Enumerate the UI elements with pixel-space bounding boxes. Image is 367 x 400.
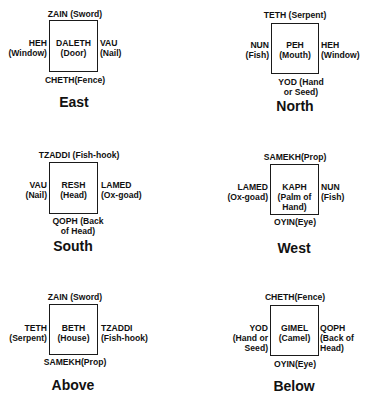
center-label: BETH (House): [49, 323, 98, 343]
label-line: HEH: [0, 38, 47, 48]
label-line: ZAIN (Sword): [25, 9, 125, 19]
label-line: Seed): [218, 343, 268, 353]
center-label: GIMEL (Camel): [270, 323, 319, 343]
label-line: (Fish): [321, 192, 344, 202]
top-label: CHETH(Fence): [245, 292, 345, 302]
bottom-label: YOD (Hand or Seed): [256, 77, 346, 97]
right-label: NUN (Fish): [321, 182, 344, 202]
label-line: or Seed): [256, 87, 346, 97]
label-line: (Serpent): [0, 333, 47, 343]
label-line: KAPH: [282, 182, 306, 192]
label-line: YOD (Hand: [256, 77, 346, 87]
label-line: SAMEKH(Prop): [245, 152, 345, 162]
bottom-label: OYIN(Eye): [255, 217, 335, 227]
left-label: HEH (Window): [0, 38, 47, 58]
top-label: ZAIN (Sword): [25, 292, 125, 302]
bottom-label: SAMEKH(Prop): [25, 357, 125, 367]
label-line: GIMEL: [281, 323, 308, 333]
right-label: QOPH (Back of Head): [320, 323, 354, 353]
label-line: (Head): [60, 190, 87, 200]
label-line: Head): [320, 343, 354, 353]
label-line: NUN: [321, 182, 344, 192]
label-line: of Head): [33, 226, 123, 236]
label-line: LAMED: [101, 180, 142, 190]
label-line: (Ox-goad): [208, 192, 268, 202]
label-line: TETH (Serpent): [245, 10, 345, 20]
top-label: TZADDI (Fish-hook): [19, 150, 139, 160]
label-line: SAMEKH(Prop): [25, 357, 125, 367]
center-label: KAPH (Palm of Hand): [270, 182, 319, 212]
label-line: DALETH: [56, 38, 91, 48]
label-line: (House): [58, 333, 90, 343]
label-line: YOD: [218, 323, 268, 333]
right-label: LAMED (Ox-goad): [101, 180, 142, 200]
label-line: LAMED: [208, 182, 268, 192]
label-line: (Fish-hook): [101, 333, 148, 343]
label-line: CHETH(Fence): [245, 292, 345, 302]
diagram-title: East: [34, 94, 114, 110]
label-line: NUN: [220, 40, 269, 50]
label-line: (Mouth): [279, 50, 311, 60]
label-line: HEH: [321, 40, 360, 50]
label-line: OYIN(Eye): [255, 217, 335, 227]
label-line: BETH: [62, 323, 85, 333]
label-line: VAU: [0, 180, 47, 190]
label-line: (Nail): [0, 190, 47, 200]
label-line: CHETH(Fence): [25, 75, 125, 85]
diagram-title: South: [33, 238, 113, 254]
label-line: TETH: [0, 323, 47, 333]
diagram-title: West: [254, 240, 334, 256]
center-label: RESH (Head): [49, 180, 98, 200]
label-line: (Fish): [220, 50, 269, 60]
left-label: VAU (Nail): [0, 180, 47, 200]
bottom-label: OYIN(Eye): [255, 359, 335, 369]
diagram-title: Above: [33, 377, 113, 393]
label-line: (Hand or: [218, 333, 268, 343]
label-line: (Window): [0, 48, 47, 58]
label-line: (Back of: [320, 333, 354, 343]
label-line: QOPH: [320, 323, 354, 333]
label-line: QOPH (Back: [33, 216, 123, 226]
right-label: VAU (Nail): [100, 38, 121, 58]
label-line: RESH: [62, 180, 86, 190]
top-label: ZAIN (Sword): [25, 9, 125, 19]
label-line: TZADDI (Fish-hook): [19, 150, 139, 160]
left-label: LAMED (Ox-goad): [208, 182, 268, 202]
left-label: TETH (Serpent): [0, 323, 47, 343]
left-label: YOD (Hand or Seed): [218, 323, 268, 353]
label-line: (Camel): [279, 333, 311, 343]
label-line: (Ox-goad): [101, 190, 142, 200]
center-label: DALETH (Door): [49, 38, 98, 58]
label-line: OYIN(Eye): [255, 359, 335, 369]
label-line: PEH: [286, 40, 304, 50]
label-line: (Nail): [100, 48, 121, 58]
label-line: (Palm of: [278, 192, 312, 202]
right-label: TZADDI (Fish-hook): [101, 323, 148, 343]
diagram-title: North: [255, 98, 335, 114]
right-label: HEH (Window): [321, 40, 360, 60]
label-line: Hand): [282, 202, 306, 212]
label-line: VAU: [100, 38, 121, 48]
top-label: SAMEKH(Prop): [245, 152, 345, 162]
label-line: (Window): [321, 50, 360, 60]
diagram-title: Below: [254, 378, 334, 394]
label-line: (Door): [61, 48, 87, 58]
center-label: PEH (Mouth): [271, 40, 319, 60]
bottom-label: QOPH (Back of Head): [33, 216, 123, 236]
label-line: ZAIN (Sword): [25, 292, 125, 302]
label-line: TZADDI: [101, 323, 148, 333]
left-label: NUN (Fish): [220, 40, 269, 60]
top-label: TETH (Serpent): [245, 10, 345, 20]
bottom-label: CHETH(Fence): [25, 75, 125, 85]
